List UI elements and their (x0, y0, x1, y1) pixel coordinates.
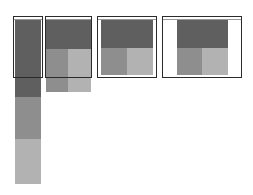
phone-block-secondary (15, 97, 41, 139)
phone-block-tertiary (15, 139, 41, 184)
desktop-frame (162, 16, 242, 78)
tablet-frame (45, 16, 92, 78)
phone-frame (13, 16, 43, 78)
desktop-frame-toolbar (163, 17, 241, 20)
laptop-frame (97, 16, 157, 78)
phone-frame-toolbar (14, 17, 42, 20)
laptop-frame-toolbar (98, 17, 156, 20)
tablet-frame-toolbar (46, 17, 91, 20)
